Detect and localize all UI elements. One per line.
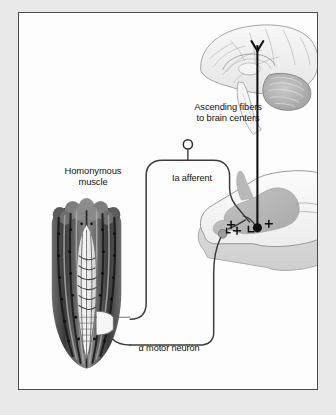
label-homonymous-muscle: Homonymous muscle bbox=[41, 165, 145, 187]
figure-canvas: Ascending fibers to brain centers Homony… bbox=[19, 13, 317, 389]
label-homonymous-line1: Homonymous bbox=[41, 165, 145, 176]
neural-pathways bbox=[19, 13, 317, 389]
alpha-motor-axon bbox=[130, 238, 220, 345]
label-ascending-fibers: Ascending fibers to brain centers bbox=[173, 101, 283, 123]
alpha-motor-neuron-soma bbox=[218, 229, 227, 238]
label-alpha-motor-neuron: α motor neuron bbox=[114, 343, 224, 354]
label-ascending-line2: to brain centers bbox=[173, 112, 283, 123]
figure-frame: Ascending fibers to brain centers Homony… bbox=[18, 12, 318, 390]
dorsal-root-ganglion-cell bbox=[183, 140, 192, 149]
figure-root: Ascending fibers to brain centers Homony… bbox=[0, 0, 336, 415]
label-homonymous-line2: muscle bbox=[41, 176, 145, 187]
label-ia-afferent: Ia afferent bbox=[155, 173, 229, 184]
label-ascending-line1: Ascending fibers bbox=[173, 101, 283, 112]
